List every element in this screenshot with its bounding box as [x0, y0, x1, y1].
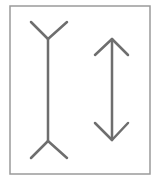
- frame-border: [10, 6, 150, 174]
- left-top-fork-icon: [31, 22, 67, 39]
- muller-lyer-diagram: [0, 0, 160, 185]
- left-figure-fins-outward: [31, 22, 67, 158]
- right-figure-double-arrow: [95, 39, 128, 140]
- left-bottom-fork-icon: [31, 141, 67, 158]
